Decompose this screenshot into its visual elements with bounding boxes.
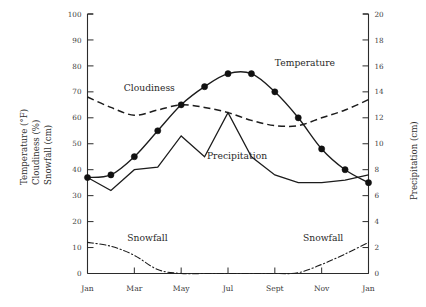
- right-tick-label: 4: [375, 217, 380, 226]
- temperature-data-point: [108, 172, 114, 178]
- left-tick-label: 100: [68, 10, 82, 19]
- x-tick-label: Nov: [314, 284, 330, 293]
- chart-canvas: 0102030405060708090100 02468101214161820…: [0, 0, 426, 307]
- left-tick-label: 50: [72, 139, 82, 148]
- x-axis-ticks: JanMarMayJulSeptNovJan: [80, 268, 375, 293]
- temperature-data-point: [272, 89, 278, 95]
- left-tick-label: 30: [72, 191, 82, 200]
- x-tick-label: Mar: [126, 284, 142, 293]
- left-tick-label: 90: [72, 36, 82, 45]
- temperature-data-point: [342, 167, 348, 173]
- series-group: [84, 71, 371, 274]
- weather-chart: 0102030405060708090100 02468101214161820…: [0, 0, 426, 307]
- left-tick-label: 60: [72, 113, 82, 122]
- left-tick-label: 80: [72, 62, 82, 71]
- temperature-data-point: [365, 180, 371, 186]
- series-label-cloudiness: Cloudiness: [124, 82, 175, 93]
- right-tick-label: 20: [375, 10, 385, 19]
- temperature-data-point: [178, 102, 184, 108]
- left-tick-label: 40: [72, 165, 82, 174]
- right-tick-label: 2: [375, 243, 380, 252]
- left-tick-label: 0: [77, 269, 82, 278]
- series-label-precipitation: Precipitation: [207, 150, 267, 161]
- temperature-data-point: [248, 71, 254, 77]
- series-label-temperature: Temperature: [275, 57, 335, 68]
- left-axis-title-line-1: Temperature (°F): [19, 109, 29, 185]
- right-axis-ticks: 02468101214161820: [363, 10, 385, 279]
- series-label-snowfall: Snowfall: [127, 232, 167, 243]
- left-tick-label: 70: [72, 87, 82, 96]
- right-tick-label: 18: [375, 36, 385, 45]
- temperature-data-point: [295, 115, 301, 121]
- temperature-data-point: [225, 71, 231, 77]
- temperature-data-point: [155, 128, 161, 134]
- right-tick-label: 8: [375, 165, 380, 174]
- left-tick-label: 10: [72, 243, 82, 252]
- right-tick-label: 6: [375, 191, 380, 200]
- left-axis-title: Temperature (°F) Cloudiness (%) Snowfall…: [19, 109, 53, 185]
- right-tick-label: 10: [375, 139, 385, 148]
- x-tick-label: Sept: [266, 284, 284, 293]
- right-tick-label: 14: [375, 87, 385, 96]
- left-axis-title-line-2: Cloudiness (%): [31, 120, 41, 185]
- right-tick-label: 12: [375, 113, 384, 122]
- left-axis-ticks: 0102030405060708090100: [68, 10, 94, 279]
- right-axis-title: Precipitation (cm): [409, 121, 419, 200]
- series-annotations: TemperatureCloudinessPrecipitationSnowfa…: [124, 57, 344, 243]
- x-tick-label: May: [173, 284, 190, 293]
- temperature-data-point: [319, 146, 325, 152]
- right-tick-label: 0: [375, 269, 380, 278]
- series-label-snowfall: Snowfall: [303, 232, 343, 243]
- left-tick-label: 20: [72, 217, 82, 226]
- x-tick-label: Jul: [222, 284, 234, 293]
- x-tick-label: Jan: [80, 284, 94, 293]
- temperature-data-point: [201, 84, 207, 90]
- temperature-data-point: [131, 154, 137, 160]
- right-tick-label: 16: [375, 62, 385, 71]
- left-axis-title-line-3: Snowfall (cm): [43, 125, 53, 185]
- temperature-data-point: [84, 174, 90, 180]
- x-tick-label: Jan: [361, 284, 375, 293]
